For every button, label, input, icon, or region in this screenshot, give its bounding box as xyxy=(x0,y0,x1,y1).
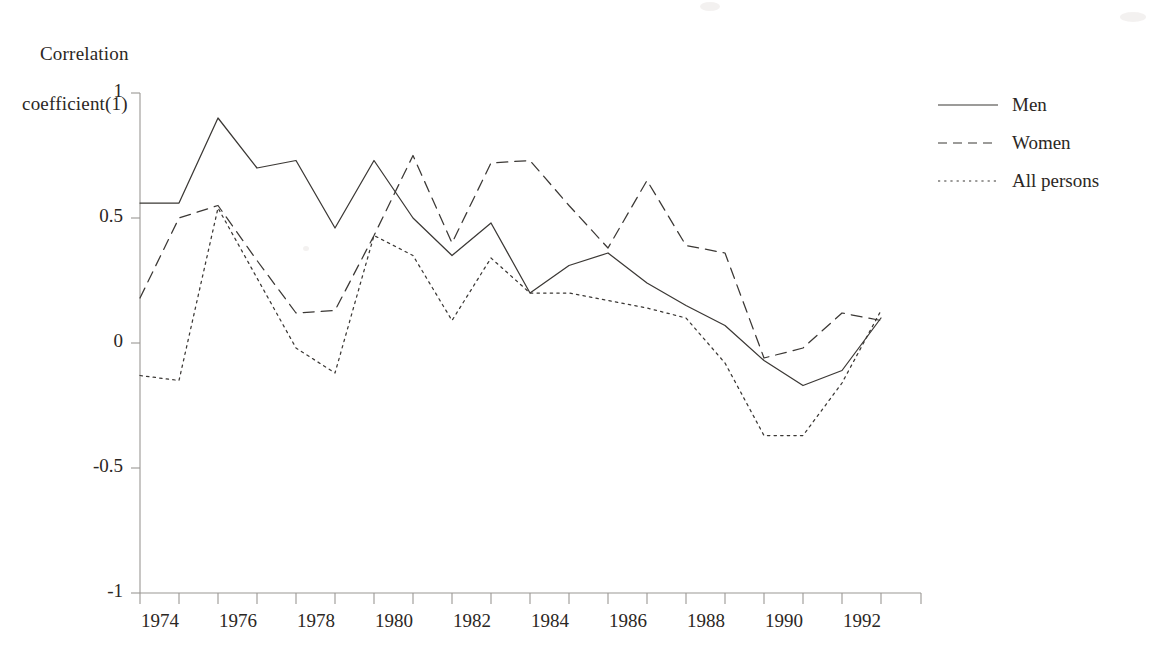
y-tick-label: -0.5 xyxy=(63,455,123,477)
x-tick-label: 1982 xyxy=(442,610,502,632)
legend-item-all-persons[interactable]: All persons xyxy=(938,162,1148,200)
x-tick-label: 1976 xyxy=(208,610,268,632)
x-tick-label: 1974 xyxy=(130,610,190,632)
legend: Men Women All persons xyxy=(938,86,1148,200)
chart-figure: Correlation coefficient(1) 10.50-0.5-1 1… xyxy=(0,0,1156,671)
y-tick-label: 0 xyxy=(63,330,123,352)
x-tick-label: 1986 xyxy=(598,610,658,632)
x-tick-label: 1978 xyxy=(286,610,346,632)
legend-swatch-solid xyxy=(938,99,998,111)
y-tick-label: -1 xyxy=(63,580,123,602)
legend-swatch-dotted xyxy=(938,175,998,187)
y-tick-label: 1 xyxy=(63,80,123,102)
x-tick-label: 1988 xyxy=(676,610,736,632)
x-tick-label: 1980 xyxy=(364,610,424,632)
x-tick-label: 1990 xyxy=(754,610,814,632)
legend-label-women: Women xyxy=(1012,132,1071,154)
legend-item-men[interactable]: Men xyxy=(938,86,1148,124)
x-tick-label: 1992 xyxy=(832,610,892,632)
series-line-all-persons xyxy=(140,208,881,436)
x-tick-label: 1984 xyxy=(520,610,580,632)
y-tick-label: 0.5 xyxy=(63,205,123,227)
series-lines xyxy=(140,118,881,436)
legend-item-women[interactable]: Women xyxy=(938,124,1148,162)
legend-swatch-dashed xyxy=(938,137,998,149)
legend-label-all-persons: All persons xyxy=(1012,170,1099,192)
legend-label-men: Men xyxy=(1012,94,1047,116)
